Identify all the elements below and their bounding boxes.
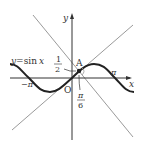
half-denominator: 2	[55, 65, 60, 74]
pi-tick-label: π	[110, 68, 117, 77]
point-a-marker	[77, 69, 81, 73]
normal-line	[33, 15, 133, 137]
diagram-canvas: y x O A y=sinx 1 2 π 6 π −π	[0, 0, 142, 152]
half-pointer-arrow	[64, 69, 76, 71]
pi6-pointer-arrow	[79, 75, 80, 90]
pi6-denominator: 6	[78, 101, 83, 110]
y-axis-arrow-icon	[70, 13, 74, 19]
curve-label: y=sinx	[10, 56, 44, 66]
x-axis-label: x	[129, 79, 134, 89]
neg-pi-tick-label: −π	[21, 80, 34, 89]
point-a-label: A	[75, 58, 83, 68]
pi6-numerator: π	[77, 91, 84, 100]
y-axis-label: y	[62, 13, 69, 23]
origin-label: O	[64, 85, 71, 95]
half-numerator: 1	[56, 55, 61, 64]
